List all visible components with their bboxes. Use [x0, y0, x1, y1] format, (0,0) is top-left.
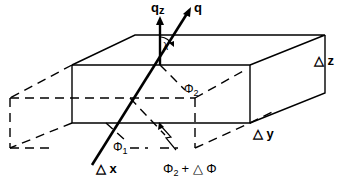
phi2-plus-delta-phi-label: Φ2+ △ Φ [163, 161, 217, 178]
lambda-label: λ [163, 41, 168, 52]
qz-arrowhead-icon [156, 16, 164, 25]
phi2-label: Φ2 [184, 82, 199, 98]
box-top-face [72, 35, 325, 65]
q-label: q [194, 0, 202, 15]
q-arrowhead-icon [183, 7, 191, 17]
delta-z-label: △ z [313, 53, 335, 68]
qz-label: qz [151, 0, 165, 16]
phi1-label: Φ1 [113, 140, 128, 156]
delta-phi-pointer-icon [161, 126, 176, 150]
delta-x-label: △ x [95, 161, 118, 176]
box-right-face [250, 35, 325, 123]
dashed-extension [10, 65, 272, 148]
delta-y-label: △ y [252, 126, 275, 141]
box-diagram: qz q λ Φ2 Φ1 Φ2+ △ Φ △ x △ y △ z [0, 0, 342, 179]
box-front-face [72, 65, 250, 123]
